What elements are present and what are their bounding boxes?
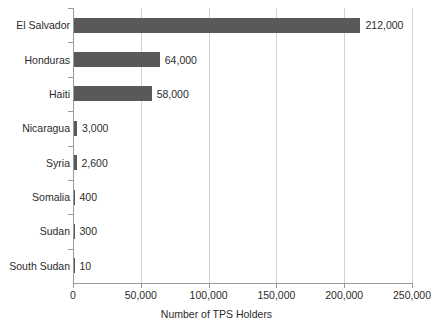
bar-value-label: 10	[80, 261, 92, 272]
y-axis-category-labels: El SalvadorHondurasHaitiNicaraguaSyriaSo…	[0, 0, 70, 331]
x-axis-tick-label: 100,000	[190, 290, 228, 301]
x-axis-tick	[412, 284, 413, 288]
gridline	[141, 8, 142, 283]
bar-value-label: 58,000	[157, 89, 189, 100]
x-axis-tick	[73, 284, 74, 288]
x-axis-tick	[141, 284, 142, 288]
x-axis-tick-label: 0	[70, 290, 76, 301]
x-axis-tick-label: 250,000	[393, 290, 431, 301]
bar-chart: El SalvadorHondurasHaitiNicaraguaSyriaSo…	[0, 0, 433, 331]
x-axis-tick-label: 50,000	[125, 290, 157, 301]
x-axis-tick	[276, 284, 277, 288]
category-label: Nicaragua	[2, 123, 70, 134]
bar	[73, 18, 360, 33]
bar-value-label: 2,600	[82, 158, 108, 169]
bar	[73, 52, 160, 67]
x-axis-title: Number of TPS Holders	[0, 309, 433, 320]
bar	[73, 86, 152, 101]
category-label: Haiti	[2, 89, 70, 100]
bar-value-label: 400	[80, 192, 98, 203]
category-label: Honduras	[2, 55, 70, 66]
x-axis-tick-label: 200,000	[325, 290, 363, 301]
x-axis-tick	[344, 284, 345, 288]
plot-area	[73, 8, 412, 283]
gridline	[209, 8, 210, 283]
category-label: El Salvador	[2, 20, 70, 31]
x-axis-tick	[209, 284, 210, 288]
gridline	[412, 8, 413, 283]
x-axis-line	[73, 283, 413, 284]
category-label: South Sudan	[2, 261, 70, 272]
bar-value-label: 300	[80, 226, 98, 237]
x-axis-tick-label: 150,000	[257, 290, 295, 301]
bar-value-label: 3,000	[82, 123, 108, 134]
bar-value-label: 212,000	[365, 20, 403, 31]
category-label: Somalia	[2, 192, 70, 203]
y-axis-line	[73, 8, 74, 284]
bar-value-label: 64,000	[165, 55, 197, 66]
gridline	[276, 8, 277, 283]
gridline	[344, 8, 345, 283]
category-label: Sudan	[2, 226, 70, 237]
category-label: Syria	[2, 158, 70, 169]
